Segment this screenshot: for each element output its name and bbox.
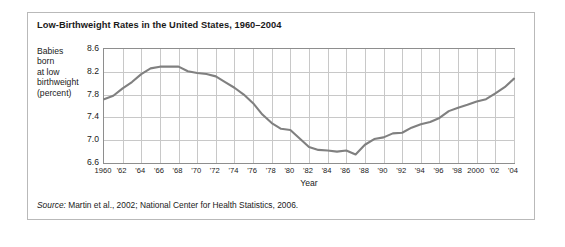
figure-title: Low-Birthweight Rates in the United Stat… bbox=[37, 20, 281, 30]
x-axis-tick-label: '68 bbox=[173, 166, 183, 175]
y-axis-tick-label: 8.2 bbox=[73, 66, 99, 76]
x-axis-tick-label: 1960 bbox=[95, 166, 112, 175]
x-axis-tick-label: '02 bbox=[489, 166, 499, 175]
x-axis-tick-label: '70 bbox=[191, 166, 201, 175]
x-axis-tick-label: '82 bbox=[303, 166, 313, 175]
x-axis-tick-label: '76 bbox=[247, 166, 257, 175]
x-axis-tick-label: '64 bbox=[135, 166, 145, 175]
x-axis-tick-label: '66 bbox=[154, 166, 164, 175]
x-axis-tick-label: 2000 bbox=[467, 166, 484, 175]
y-axis-tick-label: 7.4 bbox=[73, 111, 99, 121]
x-axis-tick-label: '78 bbox=[266, 166, 276, 175]
y-axis-tick-label: 7.8 bbox=[73, 89, 99, 99]
x-axis-tick-label: '84 bbox=[322, 166, 332, 175]
x-axis-tick-label: '04 bbox=[508, 166, 518, 175]
x-axis-tick-label: '88 bbox=[359, 166, 369, 175]
x-axis-tick-label: '98 bbox=[452, 166, 462, 175]
gridline-vertical bbox=[514, 49, 515, 163]
x-axis-tick-label: '92 bbox=[396, 166, 406, 175]
x-axis-tick-labels: 1960'62'64'66'68'70'72'74'76'78'80'82'84… bbox=[103, 166, 515, 180]
source-label: Source: bbox=[37, 200, 66, 210]
source-text: Martin et al., 2002; National Center for… bbox=[66, 200, 298, 210]
x-axis-tick-label: '74 bbox=[229, 166, 239, 175]
y-axis-tick-label: 8.6 bbox=[73, 43, 99, 53]
x-axis-tick-label: '86 bbox=[340, 166, 350, 175]
x-axis-tick-label: '72 bbox=[210, 166, 220, 175]
x-axis-tick-label: '96 bbox=[434, 166, 444, 175]
chart-plot-area bbox=[103, 48, 515, 164]
x-axis-tick-label: '94 bbox=[415, 166, 425, 175]
y-axis-tick-label: 7.0 bbox=[73, 134, 99, 144]
low-birthweight-series bbox=[104, 49, 514, 163]
y-axis-tick-labels: 6.67.07.47.88.28.6 bbox=[71, 48, 99, 164]
x-axis-tick-label: '90 bbox=[378, 166, 388, 175]
source-note: Source: Martin et al., 2002; National Ce… bbox=[37, 200, 298, 210]
x-axis-tick-label: '62 bbox=[117, 166, 127, 175]
x-axis-tick-label: '80 bbox=[284, 166, 294, 175]
